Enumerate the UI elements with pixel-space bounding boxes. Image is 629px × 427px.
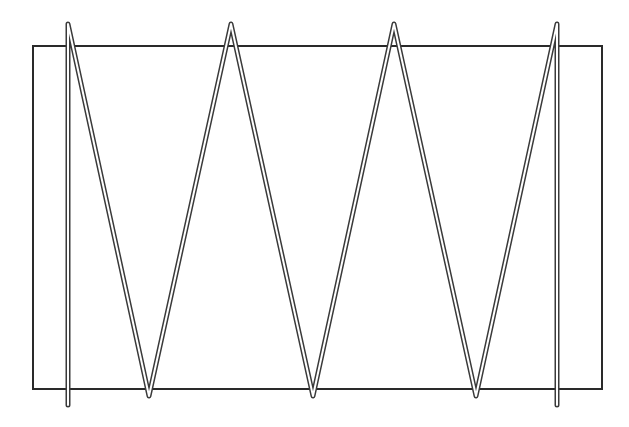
diagram-canvas xyxy=(0,0,629,427)
wire-outline xyxy=(68,24,557,405)
zigzag-diagram xyxy=(0,0,629,427)
wire-core xyxy=(68,24,557,405)
zigzag-wire xyxy=(68,24,557,405)
